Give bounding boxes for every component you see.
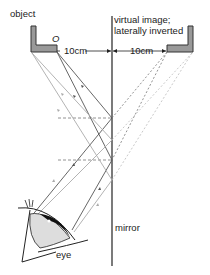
virtual-image-label: virtual image;: [114, 15, 171, 25]
mirror-label: mirror: [115, 223, 140, 233]
virtual-image-label-2: laterally inverted: [114, 26, 183, 36]
object-point-label: O: [52, 34, 59, 44]
eye-label: eye: [56, 250, 71, 260]
object-label: object: [10, 9, 35, 19]
reflection-diagram: [0, 0, 210, 275]
eye-drawing: [18, 199, 88, 262]
distance-right-label: 10cm: [130, 46, 153, 56]
distance-left-label: 10cm: [64, 46, 87, 56]
